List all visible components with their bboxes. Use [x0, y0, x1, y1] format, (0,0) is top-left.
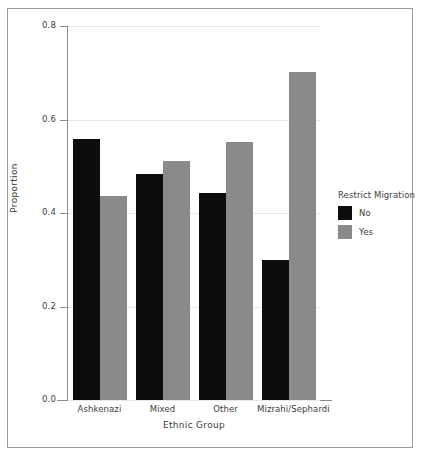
y-tick-mark	[60, 307, 67, 308]
y-tick-label: 0.2	[26, 301, 56, 311]
y-tick-mark	[60, 400, 67, 401]
x-axis-title: Ethnic Group	[68, 420, 320, 430]
legend: Restrict Migration NoYes	[338, 190, 408, 244]
legend-label: Yes	[359, 227, 373, 237]
bar	[136, 174, 163, 400]
gridline	[68, 120, 320, 121]
legend-label: No	[359, 208, 371, 218]
gridline	[68, 26, 320, 27]
x-axis-label: Mizrahi/Sephardi	[257, 404, 320, 414]
bar	[226, 142, 253, 400]
bar	[73, 139, 100, 400]
bar	[262, 260, 289, 400]
legend-rows: NoYes	[338, 206, 408, 239]
gridline	[68, 400, 320, 401]
y-tick-label: 0.8	[26, 20, 56, 30]
bar	[289, 72, 316, 400]
bar	[199, 193, 226, 400]
bar	[100, 196, 127, 400]
y-tick-mark	[60, 120, 67, 121]
x-axis-label: Other	[194, 404, 257, 414]
y-tick-label: 0.4	[26, 207, 56, 217]
legend-item: Yes	[338, 225, 408, 239]
x-axis-label: Mixed	[131, 404, 194, 414]
y-tick-mark	[60, 213, 67, 214]
legend-swatch	[338, 225, 352, 239]
y-tick-mark	[60, 26, 67, 27]
y-tick-label: 0.6	[26, 114, 56, 124]
legend-swatch	[338, 206, 352, 220]
chart-figure: 0.00.20.40.60.8 AshkenaziMixedOtherMizra…	[0, 0, 422, 457]
legend-title: Restrict Migration	[338, 190, 408, 200]
legend-item: No	[338, 206, 408, 220]
x-axis-label: Ashkenazi	[68, 404, 131, 414]
bar	[163, 161, 190, 400]
y-tick-label: 0.0	[26, 394, 56, 404]
plot-area	[68, 26, 320, 400]
y-axis-title: Proportion	[9, 108, 19, 268]
